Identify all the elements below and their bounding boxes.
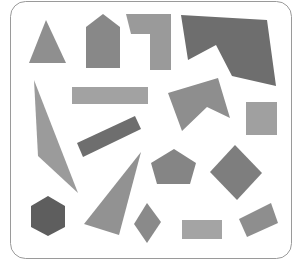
bottom-rect-shape — [182, 220, 222, 239]
shapes-canvas — [0, 0, 296, 263]
square-shape — [246, 102, 277, 135]
horizontal-bar-shape — [72, 87, 148, 104]
